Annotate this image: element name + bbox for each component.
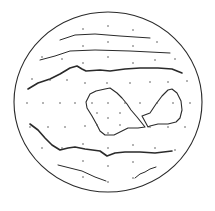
stipple-dot: [132, 29, 134, 31]
stipple-dot: [47, 126, 49, 128]
stipple-dot: [149, 126, 151, 128]
stipple-dot: [49, 79, 51, 81]
stipple-dot: [107, 41, 109, 43]
stipple-dot: [64, 126, 66, 128]
stipple-dot: [107, 132, 109, 134]
band-2: [40, 50, 170, 60]
stipple-dot: [106, 82, 108, 84]
stipple-dot: [74, 102, 76, 104]
stipple-dot: [42, 102, 44, 104]
stipple-dot: [41, 56, 43, 58]
stipple-dot: [189, 102, 191, 104]
stipple-dot: [29, 126, 31, 128]
stipple-dot: [172, 102, 174, 104]
planet-sketch: [0, 0, 215, 211]
band-3: [28, 66, 182, 89]
stipple-dot: [84, 82, 86, 84]
stipple-dot: [167, 81, 169, 83]
planet-disk-outline: [14, 12, 202, 192]
stipple-dot: [154, 59, 156, 61]
stipple-dot: [84, 125, 86, 127]
stipple-dot: [174, 58, 176, 60]
stipple-dot: [26, 102, 28, 104]
stipple-dot: [107, 181, 109, 183]
stipple-dot: [91, 102, 93, 104]
stipple-dot: [82, 160, 84, 162]
stipple-dot: [107, 117, 109, 119]
stipple-dot: [66, 79, 68, 81]
stipple-dot: [132, 45, 134, 47]
stipple-dot: [82, 62, 84, 64]
stipple-dot: [61, 147, 63, 149]
stipple-dot: [184, 126, 186, 128]
stipple-dot: [119, 112, 121, 114]
stipple-dot: [107, 102, 109, 104]
band-5: [58, 165, 106, 181]
stipple-dot: [41, 147, 43, 149]
stipple-dot: [107, 147, 109, 149]
stipple-dot: [132, 144, 134, 146]
stipple-dot: [124, 102, 126, 104]
stipple-dot: [59, 102, 61, 104]
stipple-dot: [31, 78, 33, 80]
stipple-dot: [132, 161, 134, 163]
stipple-dot: [107, 56, 109, 58]
stipple-dot: [82, 176, 84, 178]
stipple-dot: [149, 81, 151, 83]
right-spot: [142, 89, 182, 127]
stipple-dot: [139, 102, 141, 104]
stipple-dot: [96, 112, 98, 114]
band-4: [30, 124, 172, 156]
storm-spots: [86, 88, 182, 135]
stipple-dot: [174, 149, 176, 151]
stipple-dot: [82, 28, 84, 30]
planet-sketch-svg: [0, 0, 215, 211]
band-6: [135, 167, 156, 178]
stipple-dot: [107, 25, 109, 27]
stipple-dot: [186, 80, 188, 82]
stipple-dot: [132, 177, 134, 179]
stipple-dot: [132, 62, 134, 64]
stipple-dot: [61, 58, 63, 60]
band-1: [60, 34, 150, 40]
stipple-dot: [167, 126, 169, 128]
left-spot: [86, 88, 145, 135]
stipple-dot: [154, 147, 156, 149]
stipple-dot: [156, 102, 158, 104]
stipple-dot: [82, 45, 84, 47]
stipple-dot: [82, 143, 84, 145]
stipple-dot: [129, 82, 131, 84]
stipple-dot: [156, 41, 158, 43]
stipple-dots: [26, 25, 191, 183]
stipple-dot: [96, 124, 98, 126]
stipple-dot: [119, 124, 121, 126]
stipple-dot: [107, 165, 109, 167]
cloud-bands: [28, 34, 182, 181]
